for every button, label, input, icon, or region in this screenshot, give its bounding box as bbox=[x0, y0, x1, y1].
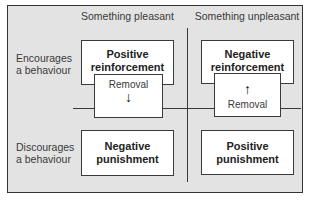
horizontal-divider-left bbox=[73, 108, 94, 109]
horizontal-divider-middle bbox=[162, 108, 214, 109]
cell-label: reinforcement bbox=[91, 61, 164, 74]
removal-connector-right: ↑ Removal bbox=[214, 73, 281, 117]
cell-label: Negative bbox=[225, 48, 271, 61]
row-header-line: Encourages bbox=[16, 52, 72, 64]
cell-label: punishment bbox=[216, 153, 278, 166]
row-header-encourages: Encourages a behaviour bbox=[16, 52, 72, 76]
row-header-line: Discourages bbox=[16, 141, 74, 153]
row-header-line: a behaviour bbox=[16, 64, 72, 76]
arrow-up-icon: ↑ bbox=[244, 82, 251, 96]
row-header-line: a behaviour bbox=[16, 153, 74, 165]
removal-connector-left: Removal ↓ bbox=[94, 74, 163, 118]
row-header-discourages: Discourages a behaviour bbox=[16, 141, 74, 165]
cell-label: Negative bbox=[105, 140, 151, 153]
removal-label: Removal bbox=[228, 99, 267, 110]
horizontal-divider-right bbox=[280, 108, 301, 109]
column-header-unpleasant: Something unpleasant bbox=[192, 10, 302, 22]
cell-positive-punishment: Positive punishment bbox=[201, 130, 294, 175]
column-header-pleasant: Something pleasant bbox=[81, 10, 173, 22]
cell-negative-punishment: Negative punishment bbox=[81, 130, 174, 176]
cell-label: punishment bbox=[96, 153, 158, 166]
cell-label: Positive bbox=[226, 140, 268, 153]
vertical-divider bbox=[187, 28, 188, 182]
cell-label: Positive bbox=[106, 48, 148, 61]
arrow-down-icon: ↓ bbox=[125, 90, 132, 104]
